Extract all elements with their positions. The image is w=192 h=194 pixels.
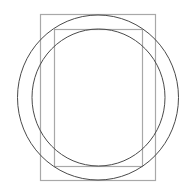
diagram-canvas xyxy=(0,0,192,194)
outer-circle xyxy=(18,15,179,180)
inner-rectangle xyxy=(55,30,143,167)
outer-rectangle xyxy=(41,15,156,181)
inner-circle xyxy=(32,29,165,166)
